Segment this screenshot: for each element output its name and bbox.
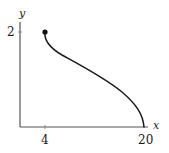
x-tick-label-20: 20 (138, 133, 153, 147)
data-curve (45, 32, 144, 127)
start-point-dot (42, 29, 47, 34)
y-axis-label: y (18, 7, 26, 20)
chart: y x 2 4 20 (0, 0, 169, 153)
x-tick-label-4: 4 (41, 133, 49, 147)
x-axis-label: x (153, 119, 160, 132)
y-tick-label-2: 2 (7, 25, 15, 39)
